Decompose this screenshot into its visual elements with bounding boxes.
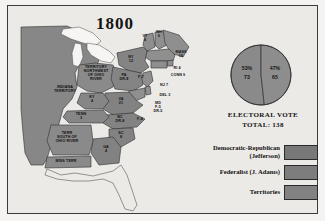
map-label-ky: KY 4 [85,95,99,103]
electoral-pie-chart: 53% 73 47% 65 [229,43,293,107]
legend-label-democratic-republican: Democratic-Republican (Jefferson) [213,144,284,160]
map-label-nh: NH 6 [152,30,166,38]
state-conn [151,61,167,68]
map-label-ga: GA 4 [99,145,113,153]
pie-label-left-value: 73 [235,74,259,81]
figure-frame: 1800 [7,5,318,214]
map-label-ny: NY 12 [123,55,139,63]
map-label-mass: MASS 16 [171,50,191,58]
legend-row-federalist: Federalist (J. Adams) [190,164,318,180]
legend-row-territories: Territories [190,184,318,200]
pie-label-right-value: 65 [263,74,287,81]
us-election-map: VT 4 NH 6 MASS 16 RI 4 CONN 9 NY 12 NJ 7… [17,13,207,218]
electoral-vote-total: TOTAL: 138 [208,120,318,130]
map-label-nw-terr: TERRITORY NORTHWEST OF OHIO RIVER [79,65,113,82]
map-label-md: MD F-5 DR-5 [149,101,167,113]
florida-outline [45,165,137,211]
map-label-miss-terr: MISS TERR [47,159,85,163]
map-label-del: DEL 3 [155,93,175,97]
map-label-indiana: INDIANA TERRITORY [49,85,81,93]
electoral-vote-caption: ELECTORAL VOTE TOTAL: 138 [208,110,318,130]
legend-swatch-democratic-republican [284,145,318,160]
map-label-nc-fed: F-4 [133,117,147,121]
map-label-ri: RI 4 [169,66,185,70]
map-label-vt: VT 4 [138,34,152,42]
legend-swatch-territories [284,185,318,200]
map-label-va: VA 21 [113,97,129,105]
map-label-pa-fed: F-7 [134,75,148,79]
map-label-conn: CONN 9 [165,73,191,77]
legend-row-democratic-republican: Democratic-Republican (Jefferson) [190,144,318,160]
pie-label-right-percent: 47% [263,65,287,72]
state-del [145,86,151,95]
electoral-map-figure: 1800 [0,0,325,221]
map-label-pa: PA DR-8 [115,73,133,81]
map-legend: Democratic-Republican (Jefferson) Federa… [190,144,318,204]
legend-swatch-federalist [284,165,318,180]
map-label-tenn: TENN 3 [71,112,91,120]
map-label-sc: SC 8 [114,131,128,139]
map-label-nc: NC DR-8 [111,115,129,123]
legend-label-federalist: Federalist (J. Adams) [220,168,284,176]
map-label-south-ohio: TERR SOUTH OF OHIO RIVER [49,131,85,143]
legend-label-territories: Territories [250,188,284,196]
pie-label-left-percent: 53% [235,65,259,72]
map-label-nj: NJ 7 [155,83,173,87]
electoral-vote-title: ELECTORAL VOTE [208,110,318,120]
